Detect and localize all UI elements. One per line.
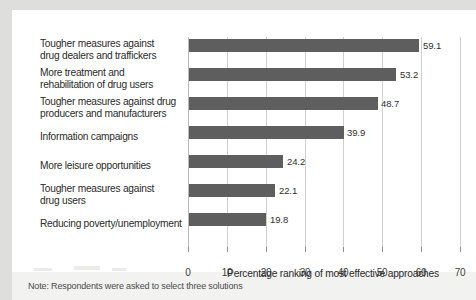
scan-artifact (34, 268, 52, 271)
tick-mark (421, 247, 422, 252)
tick-mark (188, 247, 189, 252)
bar (189, 155, 283, 168)
tick-mark (305, 247, 306, 252)
chart-panel: Tougher measures against drug dealers an… (12, 10, 476, 272)
gridline-60 (421, 37, 422, 247)
bar-value-label: 22.1 (279, 184, 297, 197)
category-label: Tougher measures against drug producers … (40, 96, 190, 119)
x-axis-title: Percentage ranking of most effective app… (188, 268, 476, 279)
tick-mark (382, 247, 383, 252)
tick-mark (266, 247, 267, 252)
category-label-line: Reducing poverty/unemployment (40, 218, 190, 230)
category-label-line: Tougher measures against (40, 183, 190, 195)
category-label-line: More leisure opportunities (40, 160, 190, 172)
category-label: Information campaigns (40, 131, 190, 143)
category-label: Reducing poverty/unemployment (40, 218, 190, 230)
tick-mark (343, 247, 344, 252)
bar-value-label: 24.2 (287, 155, 305, 168)
bar (189, 39, 419, 52)
bar-value-label: 48.7 (381, 97, 399, 110)
category-label-line: Tougher measures against (40, 38, 190, 50)
plot-area: 0 10 20 30 40 50 60 70 59.1 53.2 48.7 39… (188, 37, 460, 247)
bar-value-label: 19.8 (270, 213, 288, 226)
bar (189, 213, 266, 226)
category-label: Tougher measures against drug dealers an… (40, 38, 190, 61)
bar (189, 97, 378, 110)
bar (189, 184, 275, 197)
category-label-line: drug users (40, 195, 190, 207)
category-label: More treatment and rehabilitation of dru… (40, 67, 190, 90)
category-label-line: More treatment and (40, 67, 190, 79)
tick-mark (227, 247, 228, 252)
category-label-line: Information campaigns (40, 131, 190, 143)
bar-value-label: 53.2 (400, 68, 418, 81)
category-label-line: Tougher measures against drug (40, 96, 190, 108)
category-label: More leisure opportunities (40, 160, 190, 172)
category-label-line: rehabilitation of drug users (40, 79, 190, 91)
scan-artifact (112, 268, 126, 271)
bar-value-label: 39.9 (347, 126, 365, 139)
bar (189, 126, 344, 139)
figure-page: Tougher measures against drug dealers an… (0, 0, 476, 300)
category-label-line: producers and manufacturers (40, 108, 190, 120)
gridline-70 (460, 37, 461, 247)
category-label: Tougher measures against drug users (40, 183, 190, 206)
tick-mark (460, 247, 461, 252)
bar-value-label: 59.1 (423, 39, 441, 52)
figure-note: Note: Respondents were asked to select t… (28, 281, 243, 291)
scan-artifact (74, 266, 100, 270)
bar (189, 68, 396, 81)
category-label-line: drug dealers and traffickers (40, 50, 190, 62)
